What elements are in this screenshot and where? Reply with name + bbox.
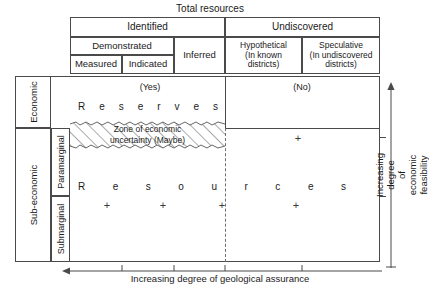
right-axis-label: Increasing degree of economic feasibilit…	[390, 110, 414, 240]
plus-mark-2: +	[160, 200, 166, 211]
reserves-letter: e	[193, 101, 199, 112]
resources-letter: r	[245, 181, 248, 192]
resources-letter: s	[341, 181, 346, 192]
plus-mark-1: +	[104, 200, 110, 211]
identified-undiscovered-solid-divider	[225, 76, 226, 128]
reserves-letter: s	[213, 101, 218, 112]
reserves-label: R e s e r v e s	[78, 98, 218, 114]
resources-letter: s	[146, 181, 151, 192]
resources-letter: e	[113, 181, 119, 192]
header-speculative: Speculative (In undiscovered districts)	[302, 37, 380, 74]
header-indicated: Indicated	[122, 55, 174, 74]
row-label-economic: Economic	[15, 76, 51, 128]
right-axis-tick-1	[380, 137, 386, 138]
row-label-sub-economic: Sub-economic	[15, 128, 51, 262]
header-measured: Measured	[70, 55, 122, 74]
reserves-letter: s	[119, 101, 124, 112]
resources-label: R e s o u r c e s	[78, 178, 346, 194]
resources-letter: e	[308, 181, 314, 192]
header-inferred: Inferred	[174, 37, 225, 74]
reserves-letter: v	[174, 101, 179, 112]
resources-letter: R	[78, 181, 85, 192]
row-label-paramarginal-text: Paramarginal	[56, 135, 66, 189]
header-demonstrated: Demonstrated	[70, 37, 174, 55]
plus-mark-upper-right: +	[295, 133, 301, 144]
reserves-letter: r	[157, 101, 160, 112]
identified-undiscovered-dashed-divider	[225, 128, 226, 262]
economic-yes-label: (Yes)	[110, 80, 190, 94]
resources-letter: u	[211, 181, 217, 192]
economic-no-label: (No)	[262, 80, 342, 94]
zone-hatch-graphic	[70, 120, 225, 150]
plus-mark-4: +	[293, 200, 299, 211]
row-label-sub-economic-text: Sub-economic	[28, 165, 39, 226]
row-label-paramarginal: Paramarginal	[51, 128, 70, 196]
zone-of-economic-uncertainty: Zone of economic uncertainty (Maybe)	[70, 120, 225, 150]
reserves-letter: R	[78, 101, 85, 112]
row-label-submarginal: Submarginal	[51, 196, 70, 262]
header-undiscovered: Undiscovered	[225, 17, 380, 37]
plus-mark-3: +	[219, 200, 225, 211]
right-axis-label-text: Increasing degree of economic feasibilit…	[375, 153, 429, 197]
row-label-submarginal-text: Submarginal	[56, 204, 66, 255]
bottom-axis-label: Increasing degree of geological assuranc…	[95, 271, 345, 287]
header-hypothetical: Hypothetical (In known districts)	[225, 37, 302, 74]
diagram-title: Total resources	[110, 2, 310, 16]
resources-letter: o	[178, 181, 184, 192]
header-identified: Identified	[70, 17, 225, 37]
reserves-letter: e	[138, 101, 144, 112]
row-label-economic-text: Economic	[28, 81, 39, 123]
resources-letter: c	[275, 181, 280, 192]
reserves-letter: e	[99, 101, 105, 112]
